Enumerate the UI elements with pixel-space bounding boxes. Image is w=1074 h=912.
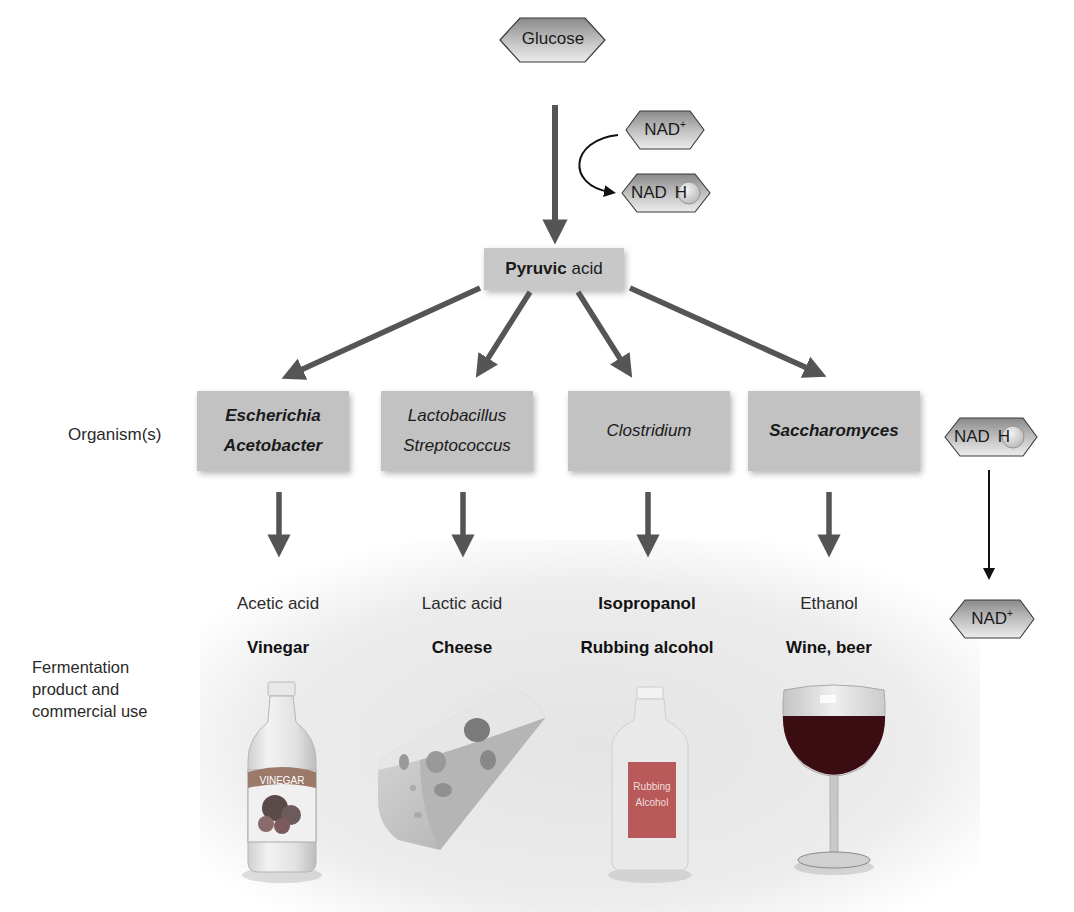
nad-plus-label-right: NAD+ xyxy=(971,608,1013,629)
organism-name: Escherichia xyxy=(225,401,320,431)
pyruvic-acid-label: Pyruvic acid xyxy=(505,259,602,279)
organism-name: Lactobacillus xyxy=(408,401,506,431)
branch-arrow-4 xyxy=(630,288,816,372)
commercial-use-4: Wine, beer xyxy=(786,638,872,658)
fermentation-diagram: VINEGAR Rubbing Alcohol xyxy=(0,0,1074,912)
products-row-label: Fermentation product and commercial use xyxy=(32,656,148,722)
branch-arrow-1 xyxy=(292,288,480,374)
product-name-3: Isopropanol xyxy=(598,594,695,614)
nad-base-text: NAD xyxy=(954,427,990,446)
organism-name: Clostridium xyxy=(606,416,691,446)
branch-arrow-3 xyxy=(578,292,626,368)
products-label-line: Fermentation xyxy=(32,656,148,678)
rubbing-alcohol-label-line-2: Alcohol xyxy=(636,797,669,808)
commercial-use-2: Cheese xyxy=(432,638,492,658)
nadh-label-top: NADH xyxy=(631,183,692,203)
organism-box-4: Saccharomyces xyxy=(748,391,920,471)
organism-box-1: Escherichia Acetobacter xyxy=(197,391,349,471)
hydrogen-text: H xyxy=(670,183,692,203)
product-name-1: Acetic acid xyxy=(237,594,319,614)
organism-box-2: Lactobacillus Streptococcus xyxy=(381,391,533,471)
product-name-2: Lactic acid xyxy=(422,594,502,614)
nad-plus-superscript: + xyxy=(680,119,686,130)
organism-name: Saccharomyces xyxy=(769,416,898,446)
vinegar-label-text: VINEGAR xyxy=(259,775,304,786)
organisms-row-label: Organism(s) xyxy=(68,424,162,446)
nad-base-text: NAD xyxy=(971,609,1007,628)
organism-box-3: Clostridium xyxy=(568,391,730,471)
glucose-label: Glucose xyxy=(522,29,584,49)
pyruvic-bold-text: Pyruvic xyxy=(505,259,566,278)
nadh-label-right: NADH xyxy=(954,427,1015,447)
nad-base-text: NAD xyxy=(631,183,667,202)
products-label-line: commercial use xyxy=(32,700,148,722)
products-label-line: product and xyxy=(32,678,148,700)
product-name-4: Ethanol xyxy=(800,594,858,614)
acid-text: acid xyxy=(567,259,603,278)
nad-plus-label-top: NAD+ xyxy=(644,119,686,140)
commercial-use-3: Rubbing alcohol xyxy=(580,638,713,658)
organism-name: Streptococcus xyxy=(403,431,511,461)
rubbing-alcohol-label-line-1: Rubbing xyxy=(633,781,670,792)
nad-plus-superscript: + xyxy=(1007,608,1013,619)
hydrogen-text: H xyxy=(993,427,1015,447)
commercial-use-1: Vinegar xyxy=(247,638,309,658)
nad-reduction-curved-arrow xyxy=(579,135,618,192)
organism-name: Acetobacter xyxy=(224,431,322,461)
branch-arrow-2 xyxy=(482,292,530,368)
nad-base-text: NAD xyxy=(644,120,680,139)
